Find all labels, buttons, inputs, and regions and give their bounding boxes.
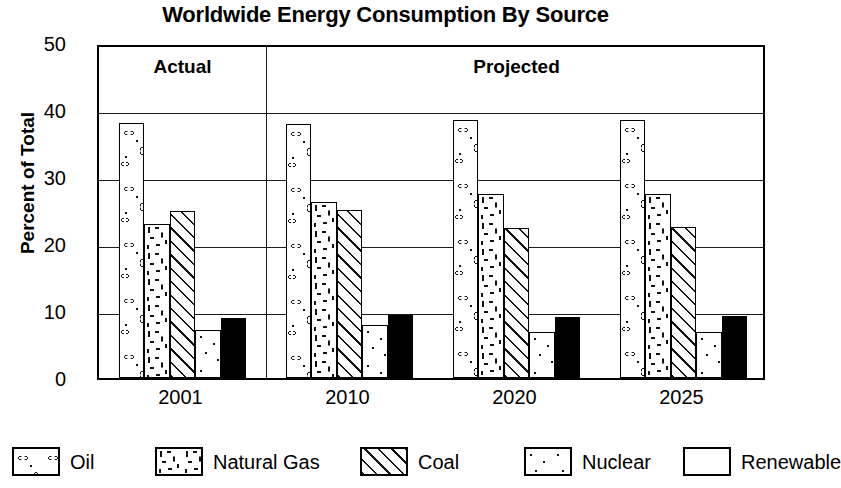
bar-oil-2001[interactable] [119,123,145,378]
bar-group-2020 [433,47,600,378]
legend-label: Renewable [741,448,841,476]
y-tick-label-30: 30 [14,168,66,188]
bar-nuclear-2001[interactable] [195,330,221,378]
x-tick-label-2010: 2010 [264,386,431,409]
y-tick-label-0: 0 [14,369,66,389]
coal-pattern-swatch [360,447,408,476]
renewable-pattern-swatch [683,447,731,476]
chart-title: Worldwide Energy Consumption By Source [0,2,771,28]
bar-nuclear-2010[interactable] [362,325,388,378]
bar-natural-gas-2001[interactable] [144,224,170,378]
bar-coal-2001[interactable] [170,211,196,379]
bar-oil-2025[interactable] [620,120,646,378]
x-tick-label-2020: 2020 [431,386,598,409]
y-tick-label-40: 40 [14,101,66,121]
y-tick-label-20: 20 [14,235,66,255]
legend-label: Nuclear [582,448,651,476]
chart-legend: OilNatural GasCoalNuclearRenewable [12,443,771,485]
legend-label: Coal [418,448,459,476]
bar-nuclear-2025[interactable] [696,332,722,378]
y-tick-label-50: 50 [14,34,66,54]
bar-oil-2010[interactable] [286,124,312,378]
legend-label: Natural Gas [213,448,320,476]
y-tick-label-10: 10 [14,302,66,322]
bar-renewable-2010[interactable] [388,315,414,378]
bar-group-2001 [99,47,266,378]
bar-natural-gas-2020[interactable] [478,194,504,378]
plot-area: ActualProjected [97,45,765,380]
bar-oil-2020[interactable] [453,120,479,378]
x-tick-label-2025: 2025 [598,386,765,409]
bar-group-2025 [600,47,767,378]
bar-renewable-2020[interactable] [555,317,581,378]
bar-coal-2025[interactable] [671,227,697,378]
x-tick-label-2001: 2001 [97,386,264,409]
bar-natural-gas-2010[interactable] [311,202,337,378]
natural-gas-pattern-swatch [155,447,203,476]
legend-label: Oil [70,448,94,476]
x-axis-ticks: 2001201020202025 [97,386,765,416]
bar-natural-gas-2025[interactable] [645,194,671,378]
y-axis-ticks: 50403020100 [14,0,66,488]
bar-nuclear-2020[interactable] [529,332,555,378]
bar-coal-2020[interactable] [504,228,530,378]
bar-coal-2010[interactable] [337,210,363,378]
nuclear-pattern-swatch [524,447,572,476]
bar-group-2010 [266,47,433,378]
bar-renewable-2001[interactable] [221,318,247,378]
oil-pattern-swatch [12,447,60,476]
bar-renewable-2025[interactable] [722,316,748,378]
